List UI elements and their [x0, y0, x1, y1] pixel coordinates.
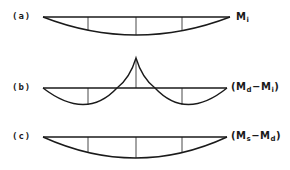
paren-close: ) — [276, 130, 281, 141]
moment-symbol: M — [236, 81, 246, 92]
diagram-a-label: (a) — [12, 11, 31, 21]
diagram-a-moment-name: Mi — [236, 11, 249, 24]
moment-subscript: i — [246, 16, 249, 24]
moment-symbol: M — [236, 11, 246, 22]
diagram-b-left-curve — [43, 88, 117, 105]
diagram-c-label: (c) — [12, 131, 31, 141]
moment-symbol: M — [236, 130, 246, 141]
moment-symbol: M — [261, 81, 271, 92]
minus-operator: − — [251, 130, 260, 141]
diagram-b-right-curve — [155, 88, 227, 105]
paren-close: ) — [274, 81, 279, 92]
diagram-c — [43, 137, 227, 158]
diagram-a-curve — [43, 17, 230, 35]
diagram-b — [43, 58, 227, 105]
minus-operator: − — [252, 81, 261, 92]
moment-symbol: M — [260, 130, 270, 141]
diagram-b-label: (b) — [12, 82, 31, 92]
diagram-c-moment-name: (Ms−Md) — [231, 130, 281, 143]
diagram-a — [43, 17, 230, 35]
diagram-c-curve — [43, 137, 227, 158]
diagram-b-moment-name: (Md−Mi) — [231, 81, 279, 94]
